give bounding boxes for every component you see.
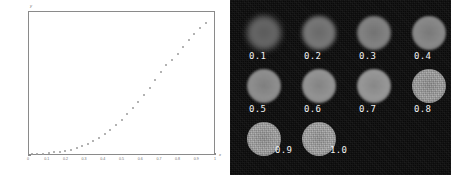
x-axis-tick-label: 0.1 [44,158,49,162]
phantom-cell: 0.6 [302,69,336,119]
x-axis-tick-label: 0.7 [156,158,161,162]
phantom-cell-label: 0.1 [249,52,266,61]
phantom-cell: 0.8 [412,69,446,119]
phantom-cell: 0.5 [247,69,281,119]
phantom-cell-label: 0.5 [249,105,266,114]
phantom-cell-label: 0.9 [275,146,292,155]
y-axis-title: y [30,4,32,8]
phantom-disc-noise [357,16,391,50]
phantom-cell-label: 0.8 [414,105,431,114]
phantom-disc [247,69,281,103]
phantom-cell: 0.4 [412,16,446,66]
phantom-disc-noise [247,69,281,103]
x-axis-title: x [219,153,221,157]
plot-frame [28,11,215,155]
phantom-cell: 0.1 [247,16,281,66]
phantom-cell: 1.0 [302,122,336,172]
phantom-disc-noise [302,16,336,50]
phantom-cell: 0.7 [357,69,391,119]
phantom-disc [302,69,336,103]
phantom-disc [247,16,281,50]
phantom-cell-label: 0.7 [359,105,376,114]
phantom-disc [412,16,446,50]
phantom-cell-label: 0.6 [304,105,321,114]
phantom-disc [357,16,391,50]
right-margin [451,0,459,175]
phantom-cell-label: 0.3 [359,52,376,61]
screenshot-root: y x 500450400350300250200150100500 00.10… [0,0,459,175]
phantom-cell-label: 0.2 [304,52,321,61]
x-axis-tick-label: 0 [27,158,29,162]
phantom-disc-noise [302,69,336,103]
phantom-disc-noise [412,16,446,50]
phantom-disc-noise [412,69,446,103]
phantom-disc [412,69,446,103]
x-axis-tick-label: 1 [214,158,216,162]
phantom-cell: 0.9 [247,122,281,172]
x-axis-tick-label: 0.6 [138,158,143,162]
x-axis-tick-label: 0.9 [194,158,199,162]
phantom-image-grid-panel: 0.10.20.30.40.50.60.70.80.91.0 [230,0,451,175]
x-axis-tick-label: 0.4 [100,158,105,162]
phantom-disc [357,69,391,103]
x-axis-tick-label: 0.3 [82,158,87,162]
phantom-cell-label: 0.4 [414,52,431,61]
phantom-disc-noise [357,69,391,103]
scatter-plot-panel: y x 500450400350300250200150100500 00.10… [0,0,230,175]
x-axis-tick-mark [215,153,216,156]
x-axis-tick-label: 0.2 [63,158,68,162]
phantom-cell-label: 1.0 [330,146,347,155]
y-axis-tick-mark [28,155,31,156]
phantom-cell: 0.2 [302,16,336,66]
x-axis-tick-label: 0.8 [175,158,180,162]
phantom-disc-noise [247,16,281,50]
phantom-cell: 0.3 [357,16,391,66]
x-axis-tick-label: 0.5 [119,158,124,162]
phantom-disc [302,16,336,50]
